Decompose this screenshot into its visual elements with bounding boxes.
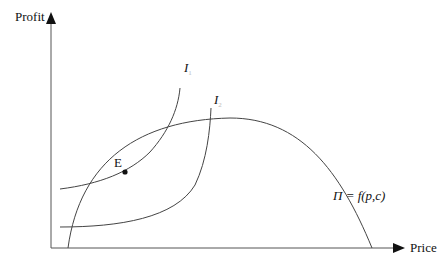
curve-label-i2: I2 — [214, 92, 222, 109]
x-axis-arrow-icon — [393, 243, 405, 253]
y-axis-label: Profit — [15, 9, 45, 25]
curve-label-i2-sub: 2 — [218, 101, 222, 109]
point-e-marker — [122, 169, 127, 174]
indifference-curve-i1 — [60, 88, 180, 189]
y-axis-arrow-icon — [46, 12, 56, 24]
profit-curve — [68, 118, 372, 248]
profit-function-label: Π = f(p,c) — [333, 188, 385, 204]
curve-label-i1-sub: 1 — [188, 69, 192, 77]
x-axis-label: Price — [410, 240, 437, 256]
curve-label-i1: I1 — [184, 60, 192, 77]
indifference-curve-i2 — [60, 108, 211, 227]
point-e-label: E — [114, 155, 122, 171]
